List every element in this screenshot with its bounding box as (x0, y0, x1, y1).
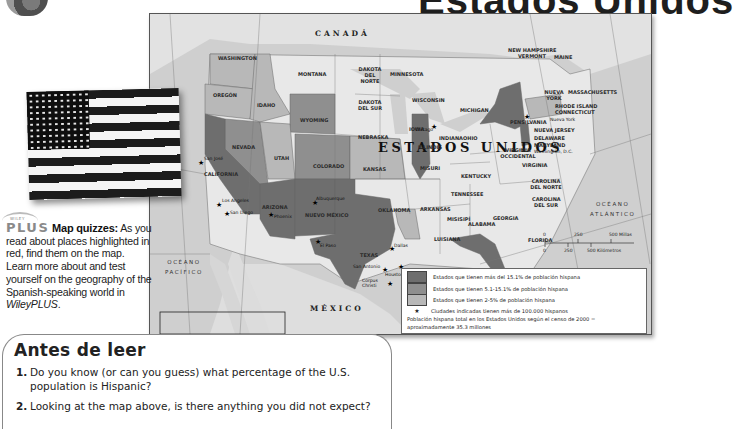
label-mexico: MÉXICO (310, 304, 364, 313)
state-label: CALIFORNIA (204, 171, 238, 177)
state-label: ILLINOIS (418, 144, 442, 150)
us-flag-image (27, 88, 182, 200)
state-label: KENTUCKY (461, 173, 491, 179)
state-label: VIRGINIA (522, 162, 547, 168)
scale-miles-500: 500 Millas (609, 232, 632, 237)
state-label: CONNECTICUT (555, 109, 595, 115)
state-label: DELAWARE (534, 135, 565, 141)
state-label: DAKOTA DEL NORTE (355, 66, 385, 84)
antes-title: Antes de leer (14, 340, 146, 360)
antes-question-list: 1. Do you know (or can you guess) what p… (16, 365, 386, 419)
legend-swatch-light (407, 294, 427, 306)
city-star-icon: ★ (312, 200, 318, 207)
map-scale-bar: 0 250 500 Millas 0 250 500 Kilómetros (541, 232, 641, 254)
state-label: VIRGINIA OCCIDENTAL (498, 147, 538, 159)
state-label: WYOMING (300, 117, 328, 123)
city-label: Phoenix (274, 214, 292, 219)
star-icon: ★ (407, 307, 427, 314)
city-label: El Paso (320, 243, 336, 248)
state-label: COLORADO (313, 163, 344, 169)
scale-miles-250: 250 (574, 232, 583, 237)
state-label: MASSACHUSETTS (568, 89, 617, 95)
legend-label: Estados que tienen 5.1-15.1% de població… (433, 286, 568, 292)
label-canada: CANADÁ (315, 29, 370, 38)
legend-label: Estados que tienen más del 15.1% de pobl… (433, 274, 580, 280)
state-label: NEBRASKA (358, 134, 388, 140)
state-label: MICHIGAN (460, 107, 489, 113)
state-label: MARYLAND (534, 142, 565, 148)
state-label: MISURI (420, 165, 440, 171)
city-label: Chicago (415, 127, 433, 132)
state-label: MONTANA (298, 71, 326, 77)
state-label: MINNESOTA (390, 71, 423, 77)
city-label: Corpus Christi (362, 278, 384, 288)
state-label: WASHINGTON (218, 55, 257, 61)
label-atlantic-ocean: OCÉANO ATLÁNTICO (590, 199, 635, 219)
wileyplus-title: Map quizzes: (52, 222, 118, 234)
state-label: TENNESSEE (451, 191, 483, 197)
scale-km-500: 500 Kilómetros (587, 248, 621, 253)
legend-item: Estados que tienen 2-5% de población his… (407, 295, 555, 304)
legend-item: Estados que tienen más del 15.1% de pobl… (407, 272, 580, 281)
legend-item: Estados que tienen 5.1-15.1% de població… (407, 284, 568, 293)
state-label: VERMONT (518, 53, 546, 59)
state-label: NEVADA (232, 144, 255, 150)
city-label: San Diego (230, 210, 253, 215)
legend-note: Población hispana total en los Estados U… (407, 316, 643, 331)
state-label: OREGÓN (213, 92, 237, 98)
state-label: CAROLINA DEL NORTE (528, 178, 564, 190)
wileyplus-logo: WILEYPLUS (6, 220, 49, 235)
state-label: UTAH (274, 155, 289, 161)
city-star-icon: ★ (387, 281, 393, 288)
state-label: IDAHO (257, 102, 275, 108)
legend-item: ★ Ciudades indicadas tienen más de 100.0… (407, 306, 568, 315)
label-pacific-ocean: OCÉANO PACÍFICO (165, 257, 203, 277)
city-label: Nueva York (550, 117, 575, 122)
city-label: Los Angeles (222, 198, 249, 203)
mascot-illustration (6, 0, 48, 16)
scale-miles-0: 0 (543, 232, 546, 237)
wileyplus-note: WILEYPLUS Map quizzes: As you read about… (6, 222, 152, 311)
map-legend: Estados que tienen más del 15.1% de pobl… (401, 268, 647, 334)
state-label: INDIANA (439, 135, 463, 141)
legend-label: Estados que tienen 2-5% de población his… (433, 297, 555, 303)
state-label: KANSAS (363, 166, 386, 172)
city-label: San José (204, 156, 223, 161)
state-label: ARKANSAS (420, 206, 451, 212)
state-label: OKLAHOMA (378, 207, 410, 213)
wileyplus-link[interactable]: WileyPLUS (6, 298, 58, 310)
state-label: OHIO (463, 135, 478, 141)
state-label: ALABAMA (468, 221, 495, 227)
state-label: NUEVO MÉXICO (305, 212, 348, 218)
state-label: MISISIPÍ (447, 216, 470, 222)
city-star-icon: ★ (216, 202, 222, 209)
state-label: MAINE (554, 54, 572, 60)
city-label: Washington, D.C. (534, 149, 573, 154)
state-label: CAROLINA DEL SUR (532, 196, 560, 208)
city-label: Dallas (394, 243, 408, 248)
state-label: TEXAS (360, 252, 378, 258)
state-label: ARIZONA (262, 204, 288, 210)
state-label: NUEVA YORK (543, 89, 565, 101)
flag-canton (27, 90, 90, 150)
scale-km-250: 250 (564, 248, 573, 253)
city-star-icon: ★ (198, 160, 204, 167)
state-label: WISCONSIN (412, 97, 445, 103)
question-item: 1. Do you know (or can you guess) what p… (16, 365, 386, 393)
city-label: San Antonio (353, 264, 380, 269)
legend-label: Ciudades indicadas tienen más de 100.000… (431, 308, 568, 314)
state-label: NUEVA JERSEY (534, 127, 575, 133)
us-hispanic-population-map: CANADÁ MÉXICO ESTADOS UNIDOS OCÉANO PACÍ… (149, 13, 652, 335)
scale-km-0: 0 (543, 248, 546, 253)
city-star-icon: ★ (524, 114, 530, 121)
legend-swatch-dark (407, 271, 427, 283)
city-label: Albuquerque (316, 196, 345, 201)
question-item: 2. Looking at the map above, is there an… (16, 399, 386, 413)
state-label: DAKOTA DEL SUR (355, 99, 385, 111)
state-label: LUISIANA (434, 236, 460, 242)
state-label: GEORGIA (493, 215, 518, 221)
